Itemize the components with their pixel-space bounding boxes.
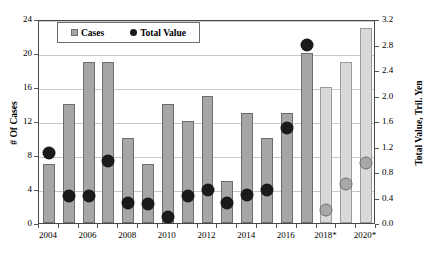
bar <box>301 53 313 223</box>
y-axis-tick-label: 4 <box>6 184 32 194</box>
data-point <box>62 190 75 203</box>
x-axis-tick <box>375 224 376 228</box>
legend-label-cases: Cases <box>81 28 104 38</box>
bar <box>320 87 332 223</box>
x-axis-tick <box>97 224 98 228</box>
bar <box>261 138 273 223</box>
data-point <box>201 183 214 196</box>
x-axis-tick <box>137 224 138 228</box>
x-axis-tick-label: 2008 <box>107 230 147 240</box>
bar <box>122 138 134 223</box>
y-axis-right-tick <box>375 46 379 47</box>
y-axis-right-tick-label: 3.2 <box>382 14 408 24</box>
x-axis-tick <box>197 224 198 228</box>
x-axis-tick <box>216 224 217 228</box>
y-axis-right-tick-label: 0.4 <box>382 193 408 203</box>
chart-legend: Cases Total Value <box>57 22 200 43</box>
plot-area <box>38 20 375 224</box>
bar <box>182 121 194 223</box>
data-point <box>360 156 373 169</box>
x-axis-tick <box>58 224 59 228</box>
data-point <box>42 147 55 160</box>
data-point <box>300 38 313 51</box>
x-axis-tick-label: 2018* <box>305 230 345 240</box>
y-axis-tick-label: 12 <box>6 116 32 126</box>
x-axis-tick <box>236 224 237 228</box>
y-axis-right-tick-label: 2.8 <box>382 40 408 50</box>
x-axis-tick-label: 2012 <box>187 230 227 240</box>
y-axis-right-tick-label: 1.2 <box>382 142 408 152</box>
x-axis-tick <box>157 224 158 228</box>
x-axis-tick-label: 2014 <box>226 230 266 240</box>
circle-marker-icon <box>130 29 137 36</box>
y-axis-tick-label: 24 <box>6 14 32 24</box>
x-axis-tick <box>256 224 257 228</box>
y-axis-right-tick <box>375 20 379 21</box>
x-axis-tick-label: 2004 <box>28 230 68 240</box>
bar <box>162 104 174 223</box>
y-axis-tick-label: 16 <box>6 82 32 92</box>
x-axis-tick <box>78 224 79 228</box>
y-axis-right-tick-label: 2.0 <box>382 91 408 101</box>
y-axis-tick-label: 20 <box>6 48 32 58</box>
x-axis-tick <box>316 224 317 228</box>
x-axis-tick <box>335 224 336 228</box>
y-axis-right-tick-label: 2.4 <box>382 65 408 75</box>
x-axis-tick <box>38 224 39 228</box>
data-point <box>280 121 293 134</box>
x-axis-tick <box>117 224 118 228</box>
y-axis-right-tick-label: 1.6 <box>382 116 408 126</box>
y-axis-right-tick <box>375 173 379 174</box>
x-axis-tick-label: 2006 <box>68 230 108 240</box>
x-axis-tick-label: 2020* <box>345 230 385 240</box>
data-point <box>260 183 273 196</box>
y-axis-right-tick <box>375 199 379 200</box>
bar <box>43 164 55 224</box>
data-point <box>102 154 115 167</box>
x-axis-tick <box>276 224 277 228</box>
bar <box>340 62 352 224</box>
data-point <box>161 210 174 223</box>
x-axis-tick-label: 2010 <box>147 230 187 240</box>
legend-item-total-value: Total Value <box>130 28 186 38</box>
data-point <box>142 198 155 211</box>
y-axis-right-tick <box>375 148 379 149</box>
y-axis-tick-label: 0 <box>6 218 32 228</box>
bar <box>63 104 75 223</box>
data-point <box>181 190 194 203</box>
data-point <box>82 190 95 203</box>
chart-figure: # Of Cases Total Value, Tril. Yen 048121… <box>0 0 430 264</box>
bar <box>360 28 372 224</box>
x-axis-tick <box>355 224 356 228</box>
y-axis-right-title: Total Value, Tril. Yen <box>414 48 424 198</box>
bar <box>241 113 253 224</box>
y-axis-right-tick-label: 0.0 <box>382 218 408 228</box>
bar <box>202 96 214 224</box>
bar <box>142 164 154 224</box>
gridline <box>39 55 374 56</box>
y-axis-right-tick <box>375 122 379 123</box>
data-point <box>320 204 333 217</box>
data-point <box>122 196 135 209</box>
bar <box>102 62 114 224</box>
legend-item-cases: Cases <box>71 28 104 38</box>
x-axis-tick <box>296 224 297 228</box>
y-axis-right-tick <box>375 97 379 98</box>
data-point <box>340 177 353 190</box>
y-axis-tick-label: 8 <box>6 150 32 160</box>
square-marker-icon <box>71 29 78 36</box>
data-point <box>241 189 254 202</box>
x-axis-tick <box>177 224 178 228</box>
data-point <box>221 196 234 209</box>
y-axis-right-tick <box>375 71 379 72</box>
x-axis-tick-label: 2016 <box>266 230 306 240</box>
y-axis-right-tick-label: 0.8 <box>382 167 408 177</box>
legend-label-total-value: Total Value <box>140 28 186 38</box>
